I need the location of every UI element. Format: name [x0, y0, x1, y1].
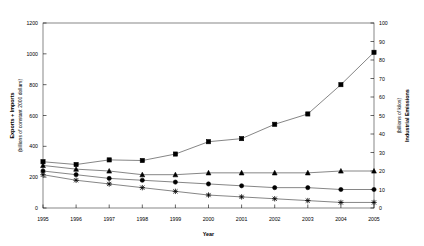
series-2-marker: [140, 178, 144, 182]
x-axis-tick-label: 2002: [269, 216, 281, 222]
series-2-marker: [206, 182, 210, 186]
series-0-marker: [240, 137, 244, 141]
series-2-marker: [74, 173, 78, 177]
y2-axis-tick-label: 60: [379, 94, 385, 100]
series-0-marker: [372, 50, 376, 54]
chart-figure: 0200400600800100012000102030405060708090…: [0, 0, 424, 246]
series-2-marker: [339, 187, 343, 191]
y2-axis-tick-label: 40: [379, 131, 385, 137]
y2-axis-title: Industrial Emissions: [404, 89, 410, 142]
series-2-marker: [240, 184, 244, 188]
y2-axis-tick-label: 90: [379, 39, 385, 45]
series-0-marker: [339, 83, 343, 87]
y2-axis-tick-label: 100: [379, 20, 388, 26]
y2-axis-tick-label: 10: [379, 187, 385, 193]
series-0-marker: [273, 122, 277, 126]
x-axis-tick-label: 1995: [37, 216, 49, 222]
y2-axis-subtitle: (billions of kilos): [396, 97, 402, 133]
y-axis-tick-label: 400: [29, 143, 38, 149]
y2-axis-tick-label: 20: [379, 168, 385, 174]
series-0-marker: [74, 162, 78, 166]
x-axis-tick-label: 1997: [103, 216, 115, 222]
series-0-marker: [206, 140, 210, 144]
series-2-marker: [306, 186, 310, 190]
y-axis-tick-label: 200: [29, 174, 38, 180]
series-2-marker: [273, 186, 277, 190]
y-axis-tick-label: 1200: [26, 20, 38, 26]
x-axis-tick-label: 1996: [70, 216, 82, 222]
series-0-marker: [173, 152, 177, 156]
series-line-0: [43, 52, 374, 164]
series-0-marker: [140, 158, 144, 162]
plot-frame: [43, 23, 374, 208]
y2-axis-tick-label: 30: [379, 150, 385, 156]
y-axis-title: Exports + Imports: [9, 93, 15, 139]
y-axis-tick-label: 1000: [26, 51, 38, 57]
y2-axis-tick-label: 0: [379, 205, 382, 211]
x-axis-tick-label: 1999: [170, 216, 182, 222]
series-0-marker: [107, 158, 111, 162]
series-0-marker: [306, 112, 310, 116]
x-axis-tick-label: 1998: [137, 216, 149, 222]
series-2-marker: [107, 176, 111, 180]
y-axis-tick-label: 0: [35, 205, 38, 211]
x-axis-title: Year: [203, 231, 215, 237]
y2-axis-tick-label: 70: [379, 76, 385, 82]
y2-axis-tick-label: 80: [379, 57, 385, 63]
x-axis-tick-label: 2001: [236, 216, 248, 222]
x-axis-tick-label: 2005: [368, 216, 380, 222]
x-axis-tick-label: 2000: [203, 216, 215, 222]
y-axis-tick-label: 800: [29, 82, 38, 88]
line-chart-canvas: 0200400600800100012000102030405060708090…: [0, 0, 424, 246]
y-axis-subtitle: (billions of constant 2000 dollars): [17, 79, 23, 152]
x-axis-tick-label: 2003: [302, 216, 314, 222]
y2-axis-tick-label: 50: [379, 113, 385, 119]
x-axis-tick-label: 2004: [335, 216, 347, 222]
series-2-marker: [372, 187, 376, 191]
y-axis-tick-label: 600: [29, 113, 38, 119]
series-2-marker: [173, 180, 177, 184]
